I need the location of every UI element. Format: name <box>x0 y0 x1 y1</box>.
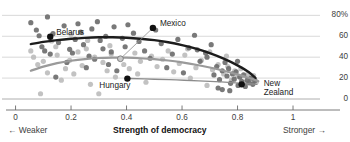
scatter-point <box>220 87 225 92</box>
scatter-point <box>166 48 171 53</box>
scatter-point <box>75 21 80 26</box>
scatter-point <box>35 62 40 67</box>
annotation-label-line: Hungary <box>99 82 130 91</box>
scatter-point <box>232 77 237 82</box>
scatter-point <box>197 59 202 64</box>
y-axis-tick-label: 80% <box>318 11 348 19</box>
scatter-point <box>132 50 137 55</box>
scatter-point <box>41 59 46 64</box>
scatter-point <box>89 26 94 31</box>
scatter-point <box>37 33 42 38</box>
y-axis-tick-label: 0 <box>318 95 348 103</box>
x-axis-left-caption: ← Weaker <box>8 125 47 135</box>
scatter-point <box>59 78 64 83</box>
scatter-point <box>70 50 75 55</box>
scatter-point <box>138 59 143 64</box>
annotation-target-point <box>118 56 124 62</box>
source-note <box>2 135 348 141</box>
scatter-point <box>84 65 89 70</box>
highlight-point-mexico <box>150 25 156 31</box>
x-axis-tick-label: 1 <box>275 113 311 122</box>
scatter-point <box>204 83 209 88</box>
scatter-point <box>53 74 58 79</box>
scatter-point <box>170 51 175 56</box>
scatter-point <box>34 27 39 32</box>
y-axis-tick-label: 20 <box>318 74 348 82</box>
scatter-point <box>171 69 176 74</box>
scatter-point <box>28 48 33 53</box>
x-axis-tick-label: 0 <box>0 113 34 122</box>
scatter-point <box>42 48 47 53</box>
scatter-point <box>109 49 114 54</box>
scatter-point <box>209 42 214 47</box>
scatter-point <box>154 64 159 69</box>
scatter-point <box>55 52 60 57</box>
scatter-point <box>88 82 93 87</box>
y-axis-tick-label: 40 <box>318 53 348 61</box>
x-axis-tick-label: 0.4 <box>109 113 145 122</box>
annotation-label-line: Zealand <box>264 89 294 98</box>
scatter-point <box>111 24 116 29</box>
scatter-point <box>45 14 50 19</box>
trendline-trend-low <box>129 79 257 85</box>
x-axis-tick-label: 0.8 <box>220 113 256 122</box>
scatter-point <box>164 65 169 70</box>
y-axis-tick-label: 60 <box>318 32 348 40</box>
annotation-label-mexico: Mexico <box>160 20 186 29</box>
scatter-point <box>106 62 111 67</box>
scatter-point <box>182 52 187 57</box>
scatter-point <box>113 74 118 79</box>
scatter-point <box>96 91 101 96</box>
scatter-point <box>192 33 197 38</box>
scatter-point <box>127 66 132 71</box>
scatter-point <box>45 70 50 75</box>
highlight-point-belarus <box>47 34 53 40</box>
scatter-point <box>228 81 233 86</box>
highlight-point-new-zealand <box>238 81 244 87</box>
scatter-point <box>107 43 112 48</box>
scatter-point <box>211 72 216 77</box>
scatter-point <box>28 20 33 25</box>
scatter-point <box>98 38 103 43</box>
scatter-point <box>75 49 80 54</box>
annotation-label-belarus: Belarus <box>56 29 84 38</box>
scatter-point <box>142 48 147 53</box>
scatter-point <box>114 68 119 73</box>
x-axis-tick-label: 0.2 <box>53 113 89 122</box>
scatter-point <box>224 73 229 78</box>
scatter-point <box>105 68 110 73</box>
x-axis-title: Strength of democracy <box>113 125 207 135</box>
scatter-point <box>63 66 68 71</box>
scatter-point <box>31 55 36 60</box>
scatter-point <box>38 91 43 96</box>
scatter-point <box>81 42 86 47</box>
scatter-point <box>121 62 126 67</box>
scatter-point <box>181 70 186 75</box>
x-axis-right-caption: Stronger → <box>283 125 326 135</box>
scatter-point <box>143 80 148 85</box>
annotation-label-hungary: Hungary <box>99 82 130 91</box>
annotation-label-line: Belarus <box>56 29 84 38</box>
scatter-point <box>71 71 76 76</box>
scatter-point <box>123 44 128 49</box>
scatter-point <box>204 55 209 60</box>
chart-container: 80%604020000.20.40.60.81BelarusMexicoHun… <box>0 0 350 142</box>
scatter-point <box>48 51 53 56</box>
scatter-point <box>135 71 140 76</box>
x-axis-tick-label: 0.6 <box>164 113 200 122</box>
scatter-point <box>227 88 232 93</box>
scatter-point <box>175 37 180 42</box>
scatter-point <box>125 22 130 27</box>
scatter-point <box>95 19 100 24</box>
annotation-label-line: Mexico <box>160 20 186 29</box>
annotation-label-new-zealand: NewZealand <box>264 80 294 98</box>
scatter-point <box>100 46 105 51</box>
scatter-point <box>100 60 105 65</box>
scatter-point <box>131 31 136 36</box>
